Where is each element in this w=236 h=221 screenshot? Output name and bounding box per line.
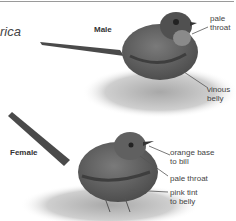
- annotation-male-vinous-belly: vinous belly: [207, 85, 230, 103]
- annotation-female-pale-throat: pale throat: [170, 174, 208, 183]
- female-label: Female: [10, 148, 38, 157]
- annotation-female-orange-base-to-bill: orange base to bill: [170, 148, 214, 166]
- bird-illustration: [0, 0, 236, 221]
- annotation-male-pale-throat: pale throat: [210, 14, 230, 32]
- male-label: Male: [94, 25, 112, 34]
- annotation-female-pink-tint-to-belly: pink tint to belly: [170, 188, 198, 206]
- male-bird: [40, 12, 198, 80]
